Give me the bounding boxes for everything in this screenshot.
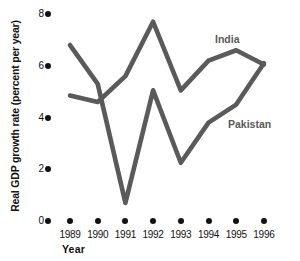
plot-area — [0, 0, 300, 261]
gdp-growth-line-chart: Real GDP growth rate (percent per year) … — [0, 0, 300, 261]
series-label-india: India — [215, 33, 240, 45]
series-label-pakistan: Pakistan — [228, 118, 271, 130]
